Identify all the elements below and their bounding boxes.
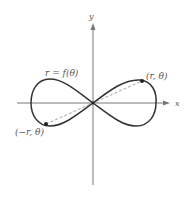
point-neg-r-theta xyxy=(44,122,48,126)
origin-point xyxy=(92,102,95,105)
point-r-theta-label: (r, θ) xyxy=(146,71,168,81)
y-axis-label: y xyxy=(88,12,94,21)
y-axis-arrow-icon xyxy=(91,23,96,30)
x-axis-label: x xyxy=(175,99,180,108)
point-r-theta xyxy=(140,79,144,83)
polar-figure-eight-diagram: x y r = f(θ) (r, θ) (−r, θ) xyxy=(0,0,189,198)
point-neg-r-theta-label: (−r, θ) xyxy=(15,127,45,137)
x-axis-arrow-icon xyxy=(163,101,170,106)
curve-label: r = f(θ) xyxy=(45,68,79,78)
